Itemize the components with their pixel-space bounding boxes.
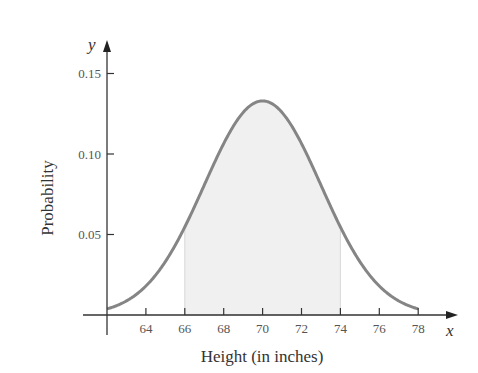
chart: 6466687072747678 0.050.100.15 x y Height… xyxy=(0,0,478,373)
y-ticks: 0.050.100.15 xyxy=(78,66,114,242)
y-tick-label: 0.05 xyxy=(78,227,101,242)
x-tick-label: 76 xyxy=(373,321,387,336)
y-axis-arrow-icon xyxy=(103,40,111,52)
x-tick-label: 64 xyxy=(139,321,153,336)
x-axis-variable: x xyxy=(445,321,454,340)
shaded-region xyxy=(185,101,341,315)
y-axis-title: Probability xyxy=(38,160,57,236)
x-tick-label: 74 xyxy=(334,321,348,336)
x-axis-title: Height (in inches) xyxy=(201,347,324,366)
y-tick-label: 0.15 xyxy=(78,66,101,81)
x-tick-label: 72 xyxy=(295,321,308,336)
x-tick-label: 68 xyxy=(217,321,230,336)
x-tick-label: 66 xyxy=(178,321,192,336)
x-tick-label: 78 xyxy=(412,321,425,336)
x-tick-label: 70 xyxy=(256,321,269,336)
y-axis-variable: y xyxy=(86,35,96,54)
x-axis-arrow-icon xyxy=(446,311,458,319)
y-tick-label: 0.10 xyxy=(78,147,101,162)
